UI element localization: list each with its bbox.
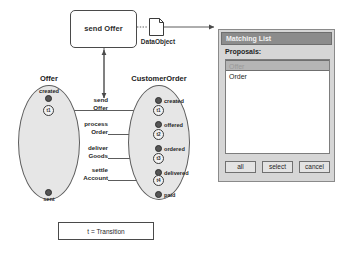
dialog-titlebar[interactable]: Matching List xyxy=(221,32,332,45)
transition-order-t4[interactable]: t4 xyxy=(153,175,164,186)
state-label-offer-created: created xyxy=(28,88,70,94)
state-label-order-paid: paid xyxy=(164,192,176,198)
transition-name-line2: Account xyxy=(62,174,108,182)
state-label-order-delivered: delivered xyxy=(164,170,189,176)
list-item-order[interactable]: Order xyxy=(226,71,329,82)
transition-order-t2[interactable]: t2 xyxy=(153,129,164,140)
state-node-offer-sent[interactable] xyxy=(45,189,52,196)
transition-name-line1: settle xyxy=(62,166,108,174)
transition-name-line2: Order xyxy=(62,128,108,136)
transition-name-process-order: process Order xyxy=(62,120,108,136)
select-button[interactable]: select xyxy=(262,161,293,173)
proposals-listbox[interactable]: Offer Order xyxy=(225,59,330,154)
lifecycle-title-offer: Offer xyxy=(18,74,80,83)
diagram-canvas: send Offer DataObject Offer created t1 s… xyxy=(0,0,341,261)
activity-label: send Offer xyxy=(71,24,136,33)
activity-send-offer[interactable]: send Offer xyxy=(70,10,137,48)
lifecycle-title-customerorder: CustomerOrder xyxy=(116,74,202,83)
state-label-order-offered: offered xyxy=(164,122,183,128)
proposals-label: Proposals: xyxy=(225,48,261,55)
dialog-title: Matching List xyxy=(226,35,271,42)
transition-name-send-offer: send Offer xyxy=(62,96,108,112)
list-item-offer[interactable]: Offer xyxy=(226,60,329,71)
transition-name-line1: send xyxy=(62,96,108,104)
state-node-offer-created[interactable] xyxy=(45,95,52,102)
data-object-icon[interactable] xyxy=(149,18,164,36)
dialog-button-bar: all select cancel xyxy=(225,161,330,173)
transition-order-t3[interactable]: t3 xyxy=(153,153,164,164)
transition-offer-t1[interactable]: t1 xyxy=(43,105,54,116)
transition-name-line1: process xyxy=(62,120,108,128)
transition-name-line2: Goods xyxy=(62,152,108,160)
transition-name-settle-account: settle Account xyxy=(62,166,108,182)
state-node-order-paid[interactable] xyxy=(155,191,162,198)
legend-text: t = Transition xyxy=(59,228,153,235)
transition-order-t1[interactable]: t1 xyxy=(153,105,164,116)
matching-list-dialog[interactable]: Matching List Proposals: Offer Order all… xyxy=(218,29,335,182)
transition-name-deliver-goods: deliver Goods xyxy=(62,144,108,160)
legend-box: t = Transition xyxy=(58,222,154,240)
cancel-button[interactable]: cancel xyxy=(299,161,330,173)
state-node-order-offered[interactable] xyxy=(155,121,162,128)
state-label-offer-sent: sent xyxy=(28,196,70,202)
transition-name-line1: deliver xyxy=(62,144,108,152)
all-button[interactable]: all xyxy=(225,161,256,173)
state-node-order-created[interactable] xyxy=(155,97,162,104)
transition-name-line2: Offer xyxy=(62,104,108,112)
data-object-label: DataObject xyxy=(140,38,176,45)
state-label-order-created: created xyxy=(164,98,184,104)
state-node-order-ordered[interactable] xyxy=(155,145,162,152)
state-label-order-ordered: ordered xyxy=(164,146,185,152)
